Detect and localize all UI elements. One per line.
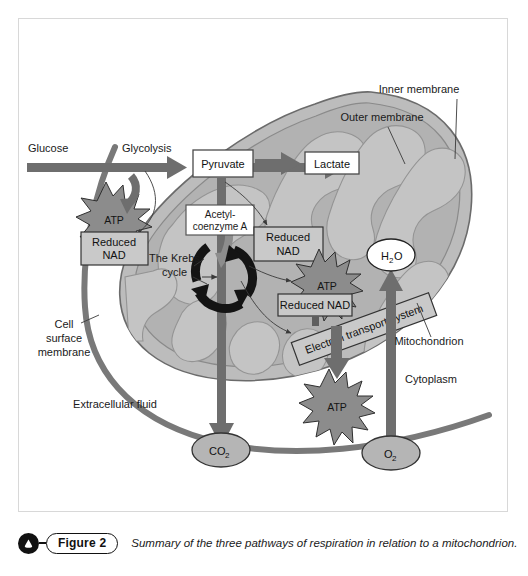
atp-krebs-label: ATP xyxy=(317,280,337,292)
atp-star-ets: ATP xyxy=(299,369,375,445)
triangle-in-circle-icon xyxy=(18,533,39,554)
label-outer-membrane: Outer membrane xyxy=(340,111,423,123)
reduced-nad-link-line1: Reduced xyxy=(266,231,310,243)
krebs-label-line1: The Krebs xyxy=(149,252,200,264)
lactate-label: Lactate xyxy=(314,158,350,170)
reduced-nad-link-line2: NAD xyxy=(276,245,299,257)
reduced-nad-glycolysis-box: Reduced NAD xyxy=(81,232,148,265)
figure-caption-text: Summary of the three pathways of respira… xyxy=(131,537,517,549)
lactate-box: Lactate xyxy=(305,152,359,174)
figure-number-badge: Figure 2 xyxy=(46,533,118,554)
reduced-nad-krebs-label: Reduced NAD xyxy=(280,299,350,311)
reduced-nad-glycolysis-line2: NAD xyxy=(102,249,125,261)
water-tail: O xyxy=(394,250,403,262)
pyruvate-box: Pyruvate xyxy=(193,150,253,177)
atp-ets-label: ATP xyxy=(327,401,347,413)
acetyl-line2: coenzyme A xyxy=(193,221,248,232)
water-ellipse: H 2 O xyxy=(367,239,415,271)
label-inner-membrane: Inner membrane xyxy=(379,83,460,95)
label-cell-surface-membrane-line1: Cell xyxy=(55,318,74,330)
label-cell-surface-membrane-line3: membrane xyxy=(38,346,91,358)
reduced-nad-glycolysis-line1: Reduced xyxy=(92,236,136,248)
caption-connector-dash xyxy=(39,542,46,544)
nad-to-ets-connector xyxy=(312,316,319,326)
carbon-dioxide-ellipse: CO 2 xyxy=(192,433,250,467)
acetyl-line1: Acetyl- xyxy=(205,209,236,220)
water-label: H xyxy=(381,250,389,262)
krebs-label-line2: cycle xyxy=(162,266,187,278)
label-glucose: Glucose xyxy=(28,142,68,154)
label-mitochondrion: Mitochondrion xyxy=(394,335,463,347)
acetyl-coenzyme-a-box: Acetyl- coenzyme A xyxy=(186,205,254,235)
figure-frame: Glucose Glycolysis Pyruvate Lactate xyxy=(18,18,508,512)
pyruvate-label: Pyruvate xyxy=(201,158,244,170)
respiration-diagram: Glucose Glycolysis Pyruvate Lactate xyxy=(19,19,509,513)
co2-label: CO xyxy=(209,445,226,457)
figure-page: Glucose Glycolysis Pyruvate Lactate xyxy=(0,0,528,576)
label-cell-surface-membrane-line2: surface xyxy=(46,332,82,344)
reduced-nad-link-box: Reduced NAD xyxy=(254,227,323,261)
oxygen-ellipse: O 2 xyxy=(362,436,420,470)
label-cytoplasm: Cytoplasm xyxy=(405,373,457,385)
o2-subscript: 2 xyxy=(392,454,397,463)
co2-subscript: 2 xyxy=(225,451,230,460)
reduced-nad-krebs-box: Reduced NAD xyxy=(278,294,352,316)
figure-caption-row: Figure 2 Summary of the three pathways o… xyxy=(18,528,513,558)
atp-glycolysis-label: ATP xyxy=(104,214,124,226)
label-glycolysis: Glycolysis xyxy=(122,142,172,154)
label-extracellular-fluid: Extracellular fluid xyxy=(73,398,157,410)
